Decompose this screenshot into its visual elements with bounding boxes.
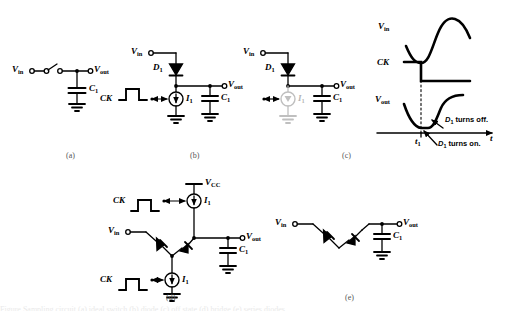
circuit-b-group	[119, 51, 227, 123]
circuit-c-current-source-label: I1	[298, 94, 305, 104]
circuit-a-capacitor-label: C1	[89, 84, 98, 94]
circuit-d-bottom-clock-waveform	[119, 279, 147, 290]
waveform-diode-on-annotation: D1 turns on.	[438, 140, 481, 149]
circuit-a-group	[30, 64, 93, 111]
circuit-d-output-terminal	[240, 236, 245, 241]
figure-caption-sliver: Figure Sampling circuit (a) ideal switch…	[0, 305, 515, 311]
circuit-c-output-terminal	[334, 84, 339, 89]
circuit-d-vout-label: Vout	[246, 232, 261, 242]
circuit-d-vin-label: Vin	[108, 226, 119, 236]
circuit-d-capacitor-label: C1	[239, 245, 248, 255]
figure-container: Vin Vout C1 Vin D1 CK I1 Vout C1 Vin D1 …	[0, 0, 515, 311]
circuit-a-output-terminal	[88, 69, 93, 74]
circuit-b-capacitor-label: C1	[221, 93, 230, 103]
subfigure-label-b: (b)	[190, 152, 199, 160]
circuit-c-current-source-off-group	[280, 86, 296, 123]
circuit-e-group	[293, 222, 402, 259]
subfigure-label-c: (c)	[342, 152, 351, 160]
waveform-t1-label: t1	[415, 137, 421, 147]
circuit-c-input-terminal	[261, 51, 266, 56]
circuit-schematic-canvas	[0, 0, 515, 311]
circuit-b-diode-body	[170, 64, 183, 75]
circuit-b-input-terminal	[149, 51, 154, 56]
circuit-b-clock-waveform	[119, 89, 147, 100]
waveform-ck-label: CK	[377, 58, 389, 67]
circuit-a-vin-label: Vin	[12, 65, 23, 75]
circuit-d-vcc-label: VCC	[205, 178, 220, 188]
subfigure-label-e: (e)	[345, 294, 354, 302]
circuit-d-top-current-source-label: I1	[204, 196, 211, 206]
circuit-e-input-terminal	[293, 222, 298, 227]
circuit-b-diode-label: D1	[153, 63, 163, 73]
circuit-c-clock-drive-arrow-group	[262, 97, 279, 100]
waveform-vin-label: Vin	[378, 22, 389, 32]
circuit-a-vout-label: Vout	[94, 65, 109, 75]
circuit-a-switch-blade	[48, 64, 57, 70]
circuit-b-clock-label: CK	[100, 94, 112, 103]
circuit-c-vin-label: Vin	[243, 47, 254, 57]
circuit-d-top-clock-label: CK	[113, 196, 125, 205]
waveform-diagram-group	[377, 19, 492, 145]
circuit-c-group	[261, 51, 339, 121]
circuit-d-input-terminal	[126, 230, 131, 235]
circuit-a-switch-right-node	[58, 69, 63, 74]
circuit-e-vout-label: Vout	[403, 218, 418, 228]
circuit-e-capacitor-label: C1	[393, 231, 402, 241]
waveform-diode-off-annotation: D1 turns off.	[445, 116, 488, 125]
circuit-d-bottom-current-source-label: I1	[182, 275, 189, 285]
circuit-a-input-terminal	[30, 69, 35, 74]
subfigure-label-d: (d)	[166, 294, 175, 302]
waveform-vin-trace	[406, 19, 470, 63]
circuit-b-current-source-label: I1	[186, 94, 193, 104]
circuit-e-output-terminal	[397, 222, 402, 227]
circuit-d-top-clock-waveform	[131, 200, 159, 211]
circuit-b-output-terminal	[222, 84, 227, 89]
waveform-ck-trace	[404, 62, 470, 81]
waveform-vout-label: Vout	[375, 95, 390, 105]
circuit-d-bottom-clock-label: CK	[100, 275, 112, 284]
waveform-time-axis-label: t	[490, 134, 493, 143]
circuit-c-vout-label: Vout	[340, 80, 355, 90]
circuit-b-vout-label: Vout	[228, 80, 243, 90]
circuit-c-diode-body	[282, 64, 295, 75]
subfigure-label-a: (a)	[66, 152, 75, 160]
circuit-b-vin-label: Vin	[131, 47, 142, 57]
circuit-e-vin-label: Vin	[275, 218, 286, 228]
circuit-c-capacitor-label: C1	[333, 93, 342, 103]
circuit-c-diode-label: D1	[265, 63, 275, 73]
